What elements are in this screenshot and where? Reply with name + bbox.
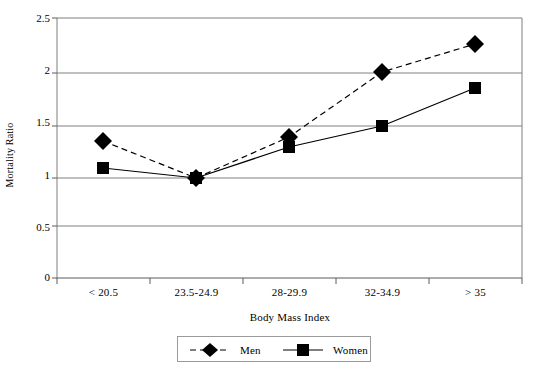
data-point-women-4 [469, 82, 481, 94]
data-point-men-3 [373, 63, 391, 81]
x-tick-label-3: 32-34.9 [336, 286, 429, 298]
x-axis-ticks [57, 278, 522, 284]
legend-item-women: Women [281, 337, 368, 363]
x-tick-label-1: 23.5-24.9 [150, 286, 243, 298]
data-point-men-1 [187, 169, 205, 187]
square-marker-icon [297, 344, 309, 356]
mortality-ratio-bmi-line-chart: Mortality Ratio 2.5 2 1.5 1 0.5 0 [0, 0, 538, 376]
x-axis-title: Body Mass Index [57, 311, 523, 323]
x-tick-label-4: > 35 [429, 286, 522, 298]
legend-marker-women [281, 342, 325, 358]
x-tick-label-0: < 20.5 [57, 286, 150, 298]
diamond-marker-icon [202, 343, 218, 357]
chart-legend: Men Women [177, 336, 371, 362]
legend-label-women: Women [333, 344, 368, 356]
x-tick-label-2: 28-29.9 [243, 286, 336, 298]
data-point-men-0 [94, 132, 112, 150]
legend-label-men: Men [240, 344, 261, 356]
data-point-men-4 [466, 35, 484, 53]
data-point-women-0 [97, 162, 109, 174]
data-point-men-2 [280, 128, 298, 146]
gridlines [57, 18, 522, 226]
series-men [94, 35, 484, 187]
y-axis-ticks [52, 18, 57, 278]
legend-item-men: Men [188, 337, 261, 363]
data-point-women-3 [376, 120, 388, 132]
legend-marker-men [188, 342, 232, 358]
